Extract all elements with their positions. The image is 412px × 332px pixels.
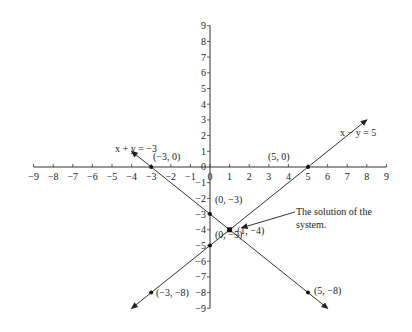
x-tick-label: 4 — [286, 171, 291, 182]
x-tick-label: −4 — [126, 171, 137, 182]
x-tick-label: 8 — [364, 171, 369, 182]
y-tick-label: −2 — [195, 193, 206, 204]
coordinate-plane: −9−8−7−6−5−4−3−2−10123456789−9−8−7−6−5−4… — [0, 0, 412, 332]
x-tick-label: 0 — [208, 171, 213, 182]
annotation-line-2: system. — [296, 219, 326, 230]
y-tick-label: 7 — [201, 52, 206, 63]
x-tick-label: −8 — [48, 171, 59, 182]
x-tick-label: 2 — [247, 171, 252, 182]
y-tick-label: −4 — [195, 224, 206, 235]
series-label-x-minus-y: x − y = 5 — [340, 127, 376, 138]
x-tick-label: −1 — [185, 171, 196, 182]
y-tick-label: −6 — [195, 256, 206, 267]
y-tick-label: −8 — [195, 287, 206, 298]
point-label-5-neg8: (5, −8) — [314, 285, 341, 297]
y-tick-label: 3 — [201, 114, 206, 125]
y-tick-label: −1 — [195, 177, 206, 188]
x-tick-label: 6 — [325, 171, 330, 182]
y-tick-label: 1 — [201, 146, 206, 157]
x-tick-label: 5 — [306, 171, 311, 182]
x-tick-label: 7 — [345, 171, 350, 182]
data-point — [306, 165, 310, 169]
y-tick-label: 5 — [201, 83, 206, 94]
point-label-neg3-0: (−3, 0) — [153, 151, 180, 163]
y-tick-label: 9 — [201, 20, 206, 31]
y-tick-label: −9 — [195, 303, 206, 314]
x-tick-label: −9 — [28, 171, 39, 182]
annotation-line-1: The solution of the — [296, 206, 372, 217]
y-tick-label: 4 — [201, 99, 206, 110]
x-tick-label: 1 — [227, 171, 232, 182]
solution-label: (1, −4) — [237, 225, 264, 237]
data-point — [149, 165, 153, 169]
data-point — [306, 291, 310, 295]
y-tick-label: 8 — [201, 36, 206, 47]
x-tick-label: −5 — [107, 171, 118, 182]
point-label-neg3-neg8: (−3, −8) — [156, 287, 189, 299]
x-tick-label: −7 — [67, 171, 78, 182]
x-tick-label: −3 — [146, 171, 157, 182]
data-point — [149, 291, 153, 295]
point-label-0-neg3: (0, −3) — [215, 194, 242, 206]
point-label-5-0: (5, 0) — [268, 151, 290, 163]
y-tick-label: 0 — [201, 161, 206, 172]
y-tick-label: −7 — [195, 271, 206, 282]
y-tick-label: 2 — [201, 130, 206, 141]
x-tick-label: −6 — [87, 171, 98, 182]
x-tick-label: 3 — [266, 171, 271, 182]
labels: x − y = 5 x + y = −3 (5, 0) (0, −5) (−3,… — [115, 127, 376, 299]
data-point — [208, 244, 212, 248]
y-tick-label: 6 — [201, 67, 206, 78]
series-label-x-plus-y: x + y = −3 — [115, 143, 157, 154]
data-point — [208, 212, 212, 216]
x-tick-label: 9 — [384, 171, 389, 182]
